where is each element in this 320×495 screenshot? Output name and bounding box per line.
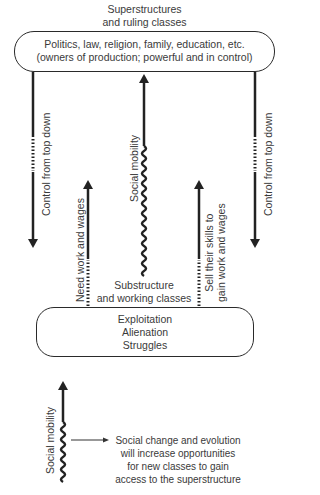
center-mobility-arrow xyxy=(139,74,149,276)
legend-pointer-arrow xyxy=(71,438,109,443)
legend-mobility-label: Social mobility xyxy=(44,407,56,474)
substructure-box: Exploitation Alienation Struggles xyxy=(36,307,254,357)
substructure-box-line1: Exploitation xyxy=(37,313,253,326)
substructure-heading: Substructure and working classes xyxy=(90,279,198,305)
legend-text-line1: Social change and evolution xyxy=(108,434,248,447)
legend-text-line3: for new classes to gain xyxy=(108,460,248,473)
legend-text-line4: access to the superstructure xyxy=(108,473,248,486)
right-control-arrow xyxy=(250,72,260,248)
need-work-label: Need work and wages xyxy=(74,198,86,302)
legend-mobility-arrow xyxy=(58,381,68,482)
left-control-label: Control from top down xyxy=(40,113,52,216)
sell-skills-label-line2: gain work and wages xyxy=(215,203,227,302)
substructure-heading-line1: Substructure xyxy=(90,279,198,292)
substructure-heading-line2: and working classes xyxy=(90,292,198,305)
right-control-label: Control from top down xyxy=(262,113,274,216)
left-control-arrow xyxy=(28,72,38,248)
center-mobility-label: Social mobility xyxy=(128,135,140,202)
sell-skills-label-line1: Sell their skills to xyxy=(203,203,215,302)
substructure-box-line2: Alienation xyxy=(37,326,253,339)
sell-skills-label: Sell their skills to gain work and wages xyxy=(203,203,227,302)
legend-text: Social change and evolution will increas… xyxy=(108,434,248,486)
legend-text-line2: will increase opportunities xyxy=(108,447,248,460)
substructure-box-line3: Struggles xyxy=(37,339,253,352)
